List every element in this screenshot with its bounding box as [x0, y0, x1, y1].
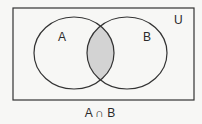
universe-label: U — [174, 13, 183, 27]
caption: A ∩ B — [85, 106, 116, 120]
set-b-label: B — [143, 30, 151, 44]
venn-diagram: A B U A ∩ B — [0, 0, 202, 124]
set-a-label: A — [58, 30, 66, 44]
